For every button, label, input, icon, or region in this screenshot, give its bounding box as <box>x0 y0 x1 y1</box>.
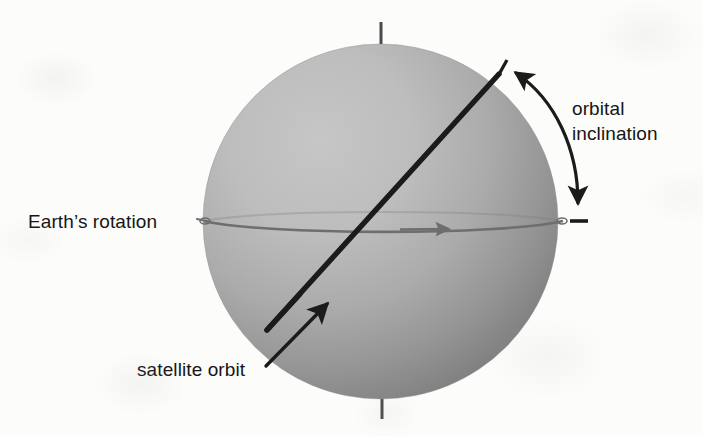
label-orbital-inclination-line2: inclination <box>572 123 658 144</box>
earth-sphere <box>203 44 558 399</box>
label-orbital-inclination-line1: orbital <box>572 98 624 119</box>
orbital-inclination-figure: Earth’s rotation orbitalinclination sate… <box>0 0 703 436</box>
orbit-plane-tick <box>498 60 507 76</box>
label-satellite-orbit: satellite orbit <box>137 357 245 382</box>
label-earth-rotation: Earth’s rotation <box>28 209 157 234</box>
label-orbital-inclination: orbitalinclination <box>572 96 658 146</box>
